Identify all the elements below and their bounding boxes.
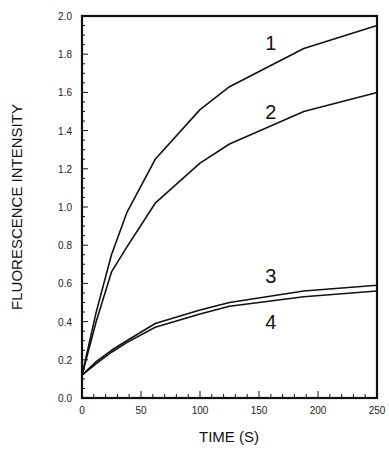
x-tick-label: 50 [135, 405, 147, 416]
series-line-1 [82, 26, 377, 376]
y-tick-label: 0.2 [58, 355, 72, 366]
x-tick-label: 0 [79, 405, 85, 416]
curve-label-2: 2 [265, 101, 276, 123]
series-line-4 [82, 291, 377, 375]
curve-label-1: 1 [265, 32, 276, 54]
x-tick-label: 150 [251, 405, 268, 416]
series-line-2 [82, 92, 377, 375]
y-tick-label: 1.6 [58, 87, 72, 98]
y-tick-label: 1.0 [58, 202, 72, 213]
curve-label-4: 4 [265, 311, 276, 333]
x-tick-label: 100 [192, 405, 209, 416]
x-tick-label: 250 [369, 405, 386, 416]
y-tick-label: 0.0 [58, 393, 72, 404]
x-tick-label: 200 [310, 405, 327, 416]
y-axis-ticks: 0.00.20.40.60.81.01.21.41.61.82.0 [58, 11, 88, 404]
fluorescence-chart: 0.00.20.40.60.81.01.21.41.61.82.0 050100… [0, 0, 389, 450]
y-tick-label: 0.6 [58, 278, 72, 289]
x-axis-ticks: 050100150200250 [79, 391, 386, 416]
y-tick-label: 1.4 [58, 126, 72, 137]
curve-label-3: 3 [265, 265, 276, 287]
y-tick-label: 1.8 [58, 49, 72, 60]
y-tick-label: 2.0 [58, 11, 72, 22]
x-axis-title: TIME (S) [199, 428, 259, 445]
y-tick-label: 0.4 [58, 317, 72, 328]
y-axis-title: FLUORESCENCE INTENSITY [8, 104, 25, 310]
series-line-3 [82, 285, 377, 375]
y-tick-label: 0.8 [58, 240, 72, 251]
curve-labels: 1234 [265, 32, 276, 333]
series-lines [82, 26, 377, 376]
y-tick-label: 1.2 [58, 164, 72, 175]
